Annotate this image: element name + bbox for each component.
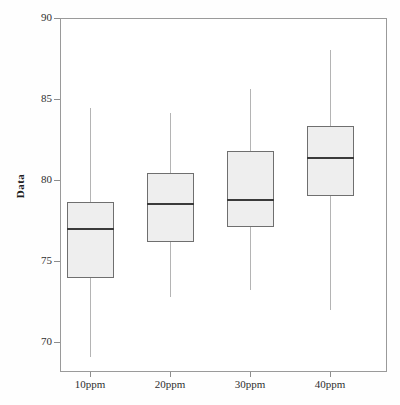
- whisker-upper: [170, 113, 171, 173]
- box-iqr: [227, 151, 274, 227]
- x-tick-mark-40ppm: [330, 372, 331, 377]
- whisker-upper: [250, 89, 251, 151]
- x-tick-mark-20ppm: [170, 372, 171, 377]
- y-tick-label-70: 70: [24, 336, 52, 347]
- whisker-lower: [330, 196, 331, 310]
- median-line: [147, 203, 194, 205]
- box-iqr: [307, 126, 354, 196]
- box-iqr: [147, 173, 194, 242]
- whisker-lower: [250, 227, 251, 290]
- whisker-lower: [170, 242, 171, 297]
- box-iqr: [67, 202, 114, 278]
- whisker-lower: [90, 278, 91, 357]
- whisker-upper: [330, 50, 331, 126]
- y-tick-label-75: 75: [24, 255, 52, 266]
- median-line: [67, 228, 114, 230]
- chart-title: [0, 0, 400, 6]
- whisker-upper: [90, 108, 91, 202]
- y-tick-label-80: 80: [24, 174, 52, 185]
- x-tick-label-10ppm: 10ppm: [55, 379, 125, 390]
- x-tick-mark-10ppm: [90, 372, 91, 377]
- median-line: [307, 157, 354, 159]
- x-tick-mark-30ppm: [250, 372, 251, 377]
- median-line: [227, 199, 274, 201]
- x-tick-label-40ppm: 40ppm: [295, 379, 365, 390]
- box-plot-chart: Data 90 85 80 75 70 10ppm 20: [0, 0, 400, 405]
- x-tick-label-20ppm: 20ppm: [135, 379, 205, 390]
- y-axis-title: Data: [14, 156, 26, 216]
- x-tick-label-30ppm: 30ppm: [215, 379, 285, 390]
- y-tick-label-90: 90: [24, 12, 52, 23]
- y-tick-label-85: 85: [24, 93, 52, 104]
